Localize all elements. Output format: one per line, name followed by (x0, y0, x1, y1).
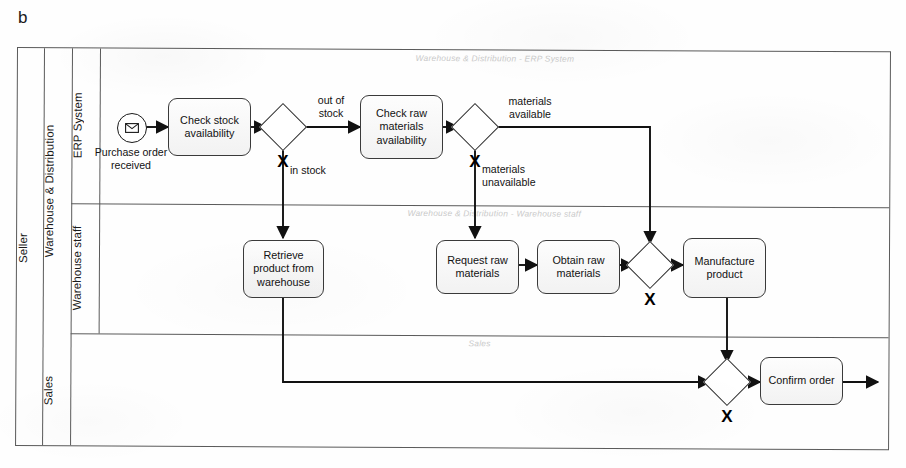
flow-label-out-of-stock: out of stock (300, 94, 362, 119)
gateway-diamond (703, 358, 751, 406)
start-event-purchase-order-received[interactable] (117, 113, 147, 143)
task-manufacture-product[interactable]: Manufacture product (683, 238, 766, 298)
flow-label-materials-available: materials available (492, 95, 568, 120)
flow-label-in-stock: in stock (290, 164, 326, 177)
start-event-label: Purchase order received (87, 146, 175, 171)
flow-label-materials-unavailable: materials unavailable (482, 163, 560, 188)
task-confirm-order[interactable]: Confirm order (760, 357, 843, 405)
task-retrieve-product-from-warehouse[interactable]: Retrieve product from warehouse (243, 240, 324, 298)
task-check-raw-materials-availability[interactable]: Check raw materials availability (360, 95, 443, 159)
envelope-icon (125, 123, 139, 133)
gateway-stock-availability[interactable]: X (266, 110, 300, 144)
task-obtain-raw-materials[interactable]: Obtain raw materials (537, 240, 620, 294)
diagram-root: b Seller Warehouse & Distribution ERP Sy… (0, 0, 906, 468)
gateway-merge-manufacture[interactable]: X (633, 248, 667, 282)
gateway-merge-confirm-order[interactable]: X (710, 365, 744, 399)
task-request-raw-materials[interactable]: Request raw materials (436, 240, 519, 294)
gateway-diamond (626, 241, 674, 289)
task-check-stock-availability[interactable]: Check stock availability (168, 98, 251, 156)
gateway-materials-availability[interactable]: X (458, 110, 492, 144)
flow-retrieve-to-confirm-merge (283, 298, 710, 382)
